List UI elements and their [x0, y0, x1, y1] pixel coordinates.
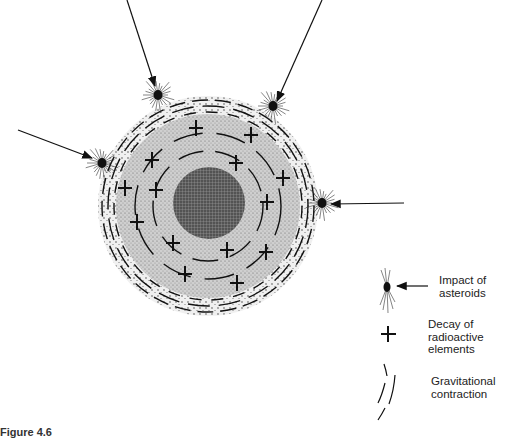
legend-impact-line-2: asteroids [439, 287, 486, 300]
legend-decay-line-3: elements [428, 343, 484, 356]
impact-icon [380, 268, 428, 313]
asteroid-icon [98, 158, 107, 168]
arc-lines-icon [378, 364, 395, 420]
legend-contraction-label: Gravitational contraction [431, 375, 496, 400]
asteroid-icon [154, 90, 163, 100]
arrow-icon [331, 203, 404, 204]
legend-decay-line-1: Decay of [428, 318, 484, 331]
legend-contraction-line-2: contraction [431, 388, 496, 401]
impact-arrow [257, 0, 322, 124]
asteroid-icon [318, 198, 327, 208]
arrow-icon [18, 130, 92, 158]
figure-caption: Figure 4.6 [0, 426, 52, 438]
arrow-icon [277, 0, 322, 101]
impact-arrow [18, 130, 118, 181]
planet [98, 96, 318, 316]
impact-arrow [127, 0, 174, 113]
legend-symbols [378, 268, 428, 420]
arrow-icon [127, 0, 155, 86]
impact-arrow [306, 188, 404, 220]
legend-decay-line-2: radioactive [428, 331, 484, 344]
core [173, 167, 245, 239]
asteroid-icon [269, 101, 278, 111]
cross-icon [381, 326, 396, 342]
legend-decay-label: Decay of radioactive elements [428, 318, 484, 356]
legend-impact-line-1: Impact of [439, 274, 486, 287]
legend-impact-label: Impact of asteroids [439, 274, 486, 299]
legend-contraction-line-1: Gravitational [431, 375, 496, 388]
